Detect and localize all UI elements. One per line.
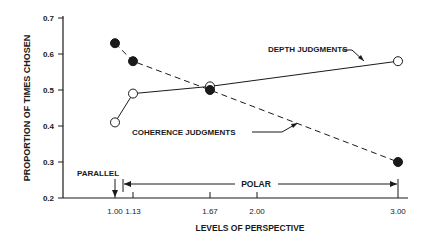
x-tick-label: 1.67 bbox=[202, 207, 218, 216]
y-tick-label: 0.5 bbox=[43, 86, 55, 95]
line-chart: 0.20.30.40.50.60.71.001.131.672.003.00 D… bbox=[0, 0, 432, 247]
coherence-arrowhead-icon bbox=[291, 123, 298, 128]
coherence-arrow-line bbox=[252, 124, 296, 132]
filled-circle-marker bbox=[206, 86, 215, 95]
x-tick-label: 3.00 bbox=[390, 207, 406, 216]
y-tick-label: 0.4 bbox=[43, 122, 55, 131]
chart-canvas: 0.20.30.40.50.60.71.001.131.672.003.00 D… bbox=[0, 0, 432, 247]
depth-judgments-label: DEPTH JUDGMENTS bbox=[268, 45, 348, 54]
open-circle-marker bbox=[394, 57, 403, 66]
polar-label: POLAR bbox=[241, 179, 271, 189]
x-tick-label: 1.13 bbox=[125, 207, 141, 216]
y-tick-label: 0.7 bbox=[43, 14, 55, 23]
polar-left-arrowhead-icon bbox=[124, 181, 131, 187]
filled-circle-marker bbox=[129, 57, 138, 66]
filled-circle-marker bbox=[394, 158, 403, 167]
open-circle-marker bbox=[129, 89, 138, 98]
x-axis-label: LEVELS OF PERSPECTIVE bbox=[195, 223, 304, 233]
polar-right-arrowhead-icon bbox=[390, 181, 397, 187]
parallel-label: PARALLEL bbox=[77, 169, 119, 178]
y-tick-label: 0.6 bbox=[43, 50, 55, 59]
coherence-judgments-label: COHERENCE JUDGMENTS bbox=[132, 128, 236, 137]
parallel-arrowhead-icon bbox=[112, 190, 118, 197]
y-tick-label: 0.2 bbox=[43, 194, 55, 203]
coherence-line bbox=[115, 43, 398, 162]
x-tick-label: 1.00 bbox=[107, 207, 123, 216]
y-tick-label: 0.3 bbox=[43, 158, 55, 167]
filled-circle-marker bbox=[111, 39, 120, 48]
y-axis-label: PROPORTION OF TIMES CHOSEN bbox=[22, 35, 32, 182]
open-circle-marker bbox=[111, 118, 120, 127]
axes: 0.20.30.40.50.60.71.001.131.672.003.00 bbox=[43, 14, 408, 216]
x-tick-label: 2.00 bbox=[249, 207, 265, 216]
